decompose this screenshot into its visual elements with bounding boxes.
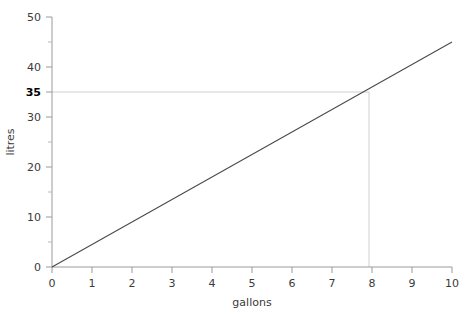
y-axis-ticks <box>46 17 52 267</box>
x-axis-ticks <box>52 267 452 273</box>
x-tick-label-8: 8 <box>369 277 376 290</box>
y-tick-label-30: 30 <box>27 111 41 124</box>
x-axis-title: gallons <box>232 296 272 309</box>
y-axis-tick-labels: 0 10 20 30 35 40 50 <box>26 11 41 274</box>
x-tick-label-1: 1 <box>89 277 96 290</box>
x-axis-tick-labels: 0 1 2 3 4 5 6 7 8 9 10 <box>49 277 460 290</box>
x-tick-label-9: 9 <box>409 277 416 290</box>
y-tick-label-50: 50 <box>27 11 41 24</box>
x-tick-label-5: 5 <box>249 277 256 290</box>
chart-canvas: 0 10 20 30 35 40 50 0 1 2 3 <box>0 0 476 315</box>
x-tick-label-4: 4 <box>209 277 216 290</box>
x-tick-label-3: 3 <box>169 277 176 290</box>
y-axis-title: litres <box>4 128 17 155</box>
x-tick-label-2: 2 <box>129 277 136 290</box>
y-tick-label-40: 40 <box>27 61 41 74</box>
y-tick-label-35: 35 <box>26 86 41 99</box>
x-tick-label-7: 7 <box>329 277 336 290</box>
y-tick-label-10: 10 <box>27 211 41 224</box>
x-tick-label-6: 6 <box>289 277 296 290</box>
x-tick-label-0: 0 <box>49 277 56 290</box>
conversion-line <box>52 42 452 267</box>
y-tick-label-20: 20 <box>27 161 41 174</box>
y-tick-label-0: 0 <box>34 261 41 274</box>
conversion-chart: 0 10 20 30 35 40 50 0 1 2 3 <box>0 0 476 315</box>
x-tick-label-10: 10 <box>445 277 459 290</box>
